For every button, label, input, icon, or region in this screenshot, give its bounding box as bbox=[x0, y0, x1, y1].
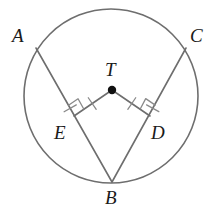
tick-mark-segment-TD bbox=[128, 98, 136, 110]
tick-mark-segment-TE bbox=[88, 98, 96, 110]
label-T: T bbox=[105, 60, 116, 79]
tick-mark-chord-CB bbox=[147, 105, 159, 112]
geometry-figure: A C T E D B bbox=[0, 0, 217, 213]
label-E: E bbox=[54, 123, 66, 142]
tick-mark-chord-AB bbox=[64, 105, 76, 112]
label-C: C bbox=[190, 26, 203, 45]
chord-AB bbox=[36, 48, 112, 182]
label-D: D bbox=[151, 123, 165, 142]
point-T bbox=[108, 86, 116, 94]
radius-TD bbox=[112, 90, 150, 116]
figure-canvas bbox=[0, 0, 217, 213]
circle-T bbox=[24, 9, 198, 183]
label-A: A bbox=[12, 26, 24, 45]
label-B: B bbox=[105, 188, 117, 207]
